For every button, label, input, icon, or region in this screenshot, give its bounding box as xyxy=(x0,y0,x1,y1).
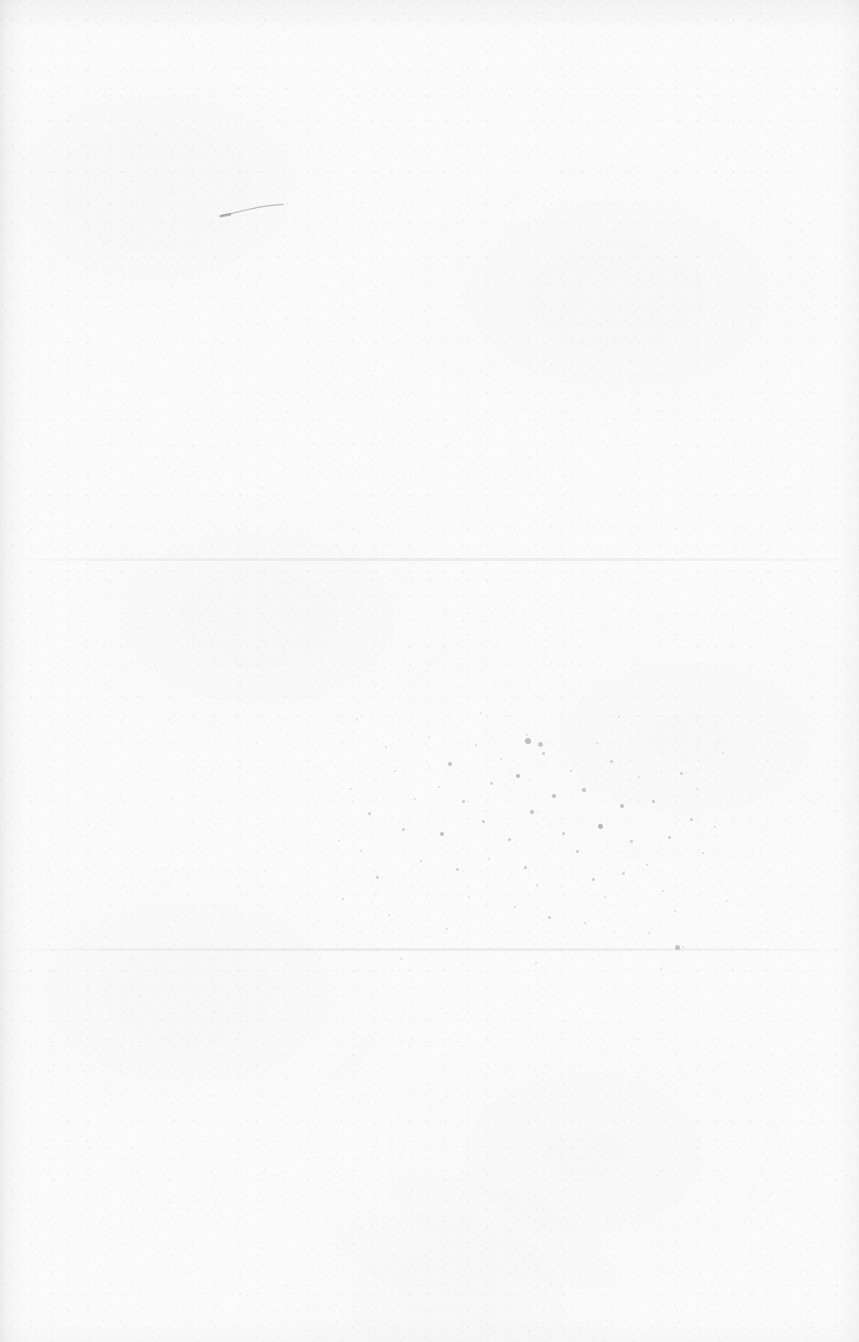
ink-speck xyxy=(630,840,633,843)
ink-speck xyxy=(538,742,543,747)
ink-speck xyxy=(360,850,362,852)
ink-speck xyxy=(480,712,482,714)
ink-speck xyxy=(570,770,572,772)
ink-speck xyxy=(420,860,422,862)
paper-mottle-texture xyxy=(0,0,859,1342)
ink-speck xyxy=(638,776,640,778)
ink-speck xyxy=(596,742,598,744)
ink-speck xyxy=(400,958,402,960)
ink-speck xyxy=(646,864,648,866)
ink-speck xyxy=(610,760,613,763)
ink-speck xyxy=(542,752,545,755)
ink-speck xyxy=(552,794,556,798)
scanned-page xyxy=(0,0,859,1342)
ink-speck xyxy=(462,800,465,803)
ink-speck xyxy=(524,866,527,869)
ink-speck xyxy=(535,962,537,964)
crease-line-lower xyxy=(0,948,859,951)
ink-speck xyxy=(680,772,683,775)
ink-speck xyxy=(475,744,477,746)
ink-speck xyxy=(440,832,444,836)
ink-speck xyxy=(385,746,387,748)
ink-speck xyxy=(350,788,352,790)
ink-speck xyxy=(562,832,565,835)
ink-speck xyxy=(514,906,516,908)
ink-speck xyxy=(582,788,586,792)
ink-speck xyxy=(618,716,620,718)
ink-speck xyxy=(714,826,716,828)
ink-speck xyxy=(592,878,595,881)
ink-speck xyxy=(438,786,440,788)
ink-speck xyxy=(456,868,459,871)
ink-speck xyxy=(525,738,531,744)
page-caption xyxy=(0,0,1,1)
ink-speck xyxy=(428,736,430,738)
ink-speck xyxy=(652,800,655,803)
ink-speck xyxy=(388,914,390,916)
ink-speck xyxy=(622,872,625,875)
ink-speck xyxy=(660,968,662,970)
ink-speck xyxy=(668,836,671,839)
ink-speck xyxy=(508,838,511,841)
paper-fibre-texture xyxy=(0,0,859,1342)
ink-speck xyxy=(446,928,448,930)
edge-shading-overlay xyxy=(0,0,859,1342)
ink-speck xyxy=(530,810,534,814)
ink-speck xyxy=(376,876,379,879)
ink-speck xyxy=(690,818,693,821)
ink-speck xyxy=(536,884,538,886)
ink-speck xyxy=(516,774,520,778)
ink-speck xyxy=(448,762,452,766)
ink-speck xyxy=(526,734,528,736)
ink-speck xyxy=(604,896,606,898)
ink-speck xyxy=(648,932,650,934)
ink-speck xyxy=(702,852,704,854)
ink-speck xyxy=(584,922,586,924)
ink-speck xyxy=(674,910,676,912)
ink-speck xyxy=(394,770,396,772)
ink-speck xyxy=(598,824,603,829)
ink-speck xyxy=(468,896,470,898)
ink-speck xyxy=(482,820,485,823)
ink-speck xyxy=(488,858,490,860)
ink-speck xyxy=(414,798,416,800)
ink-spatter-field xyxy=(330,700,730,980)
crease-line-upper xyxy=(0,558,859,561)
pen-stroke-mark xyxy=(218,198,286,222)
ink-speck xyxy=(368,812,371,815)
ink-speck xyxy=(548,916,551,919)
ink-speck xyxy=(342,898,344,900)
ink-speck xyxy=(696,788,698,790)
ink-speck xyxy=(722,752,724,754)
ink-speck xyxy=(356,718,358,720)
ink-speck xyxy=(500,758,502,760)
ink-speck xyxy=(682,946,684,948)
ink-speck xyxy=(662,890,664,892)
ink-speck xyxy=(675,945,680,950)
ink-speck xyxy=(726,900,728,902)
ink-speck xyxy=(338,840,340,842)
ink-speck xyxy=(620,804,624,808)
ink-speck xyxy=(490,782,493,785)
ink-speck xyxy=(402,828,405,831)
paper-grain-texture xyxy=(0,0,859,1342)
ink-speck xyxy=(576,850,579,853)
